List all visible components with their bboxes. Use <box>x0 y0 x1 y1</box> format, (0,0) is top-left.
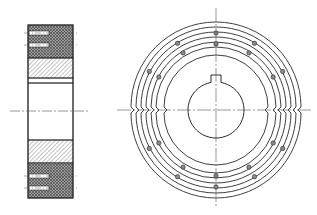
section-band-diag <box>28 140 73 163</box>
bolt-hole <box>175 41 179 45</box>
section-band-bore <box>28 83 73 140</box>
bolt-hole <box>252 41 256 45</box>
bolt-hole <box>175 174 179 178</box>
bolt-hole <box>157 75 161 79</box>
bolt-hole <box>247 165 251 169</box>
bolt-hole <box>252 174 256 178</box>
bolt-hole <box>280 146 284 150</box>
section-view <box>10 25 90 198</box>
bolt-hole <box>181 51 185 55</box>
bolt-hole <box>157 141 161 145</box>
section-band-cross <box>28 25 73 58</box>
technical-drawing <box>0 0 317 215</box>
bolt-hole <box>271 75 275 79</box>
section-band-blank <box>28 78 73 83</box>
drawing-canvas <box>0 0 317 215</box>
section-band-cross <box>28 163 73 198</box>
front-view <box>117 8 312 208</box>
bolt-hole <box>147 146 151 150</box>
bolt-hole <box>271 141 275 145</box>
bolt-hole <box>247 51 251 55</box>
bolt-hole <box>181 165 185 169</box>
bolt-hole <box>147 69 151 73</box>
section-band-diag <box>28 58 73 78</box>
bolt-hole <box>280 69 284 73</box>
